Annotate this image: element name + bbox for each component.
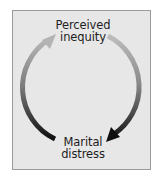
node-label-line: distress	[43, 148, 123, 160]
arrow-inequity-to-distress	[106, 36, 139, 142]
node-perceived-inequity: Perceived inequity	[43, 19, 123, 43]
node-marital-distress: Marital distress	[43, 136, 123, 160]
arrow-distress-to-inequity	[22, 34, 56, 139]
node-label-line: inequity	[43, 31, 123, 43]
